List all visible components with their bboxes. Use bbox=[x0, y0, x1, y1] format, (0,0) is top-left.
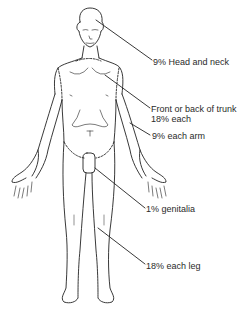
torso-outline bbox=[54, 58, 122, 94]
label-trunk-line1: Front or back of trunk bbox=[151, 104, 237, 114]
torso-lower bbox=[62, 100, 116, 142]
leader-head bbox=[96, 20, 152, 60]
label-arm: 9% each arm bbox=[152, 131, 205, 141]
leader-leg bbox=[98, 228, 145, 264]
label-head-neck: 9% Head and neck bbox=[153, 57, 229, 67]
trunk-boundary-left bbox=[58, 68, 62, 100]
face-features bbox=[83, 30, 98, 44]
neck-outline bbox=[82, 46, 99, 58]
navel bbox=[87, 131, 93, 136]
label-leg: 18% each leg bbox=[146, 261, 201, 271]
hip-boundary bbox=[64, 142, 114, 158]
body-outline-figure bbox=[0, 0, 244, 311]
knee-lines bbox=[74, 215, 104, 225]
genitalia-outline bbox=[83, 153, 95, 173]
leader-trunk bbox=[105, 75, 150, 108]
label-trunk-line2: 18% each bbox=[151, 114, 191, 124]
chest-lines bbox=[70, 68, 110, 96]
label-genitalia: 1% genitalia bbox=[146, 204, 195, 214]
head-outline bbox=[77, 8, 104, 47]
leader-arm bbox=[130, 123, 150, 135]
abdomen-lines bbox=[72, 110, 108, 127]
left-hand-fingers bbox=[14, 182, 32, 198]
right-hand-fingers bbox=[148, 182, 166, 198]
leader-genitalia bbox=[95, 168, 145, 208]
left-arm bbox=[12, 94, 62, 183]
